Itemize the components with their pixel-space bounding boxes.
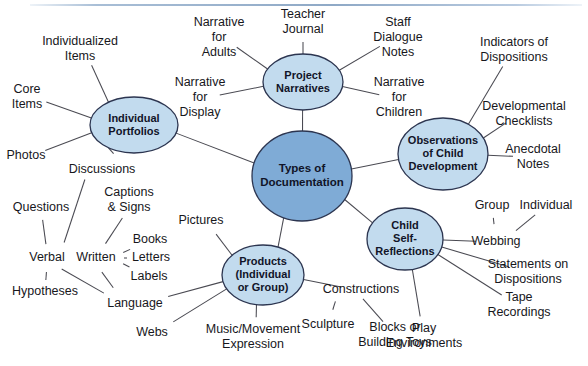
- edge-products-individual-or-group-to-pictures: [216, 234, 232, 255]
- leaf-labels: Labels: [131, 269, 168, 283]
- leaf-constructions: Constructions: [323, 282, 399, 296]
- edge-verbal-to-questions: [43, 220, 46, 244]
- mindmap-canvas: Types ofDocumentationIndividualPortfolio…: [0, 0, 588, 366]
- leaf-group: Group: [475, 198, 510, 212]
- edge-language-to-written: [102, 272, 113, 288]
- leaf-captions-and-signs: Captions& Signs: [104, 185, 153, 214]
- leaf-indicators-of-dispositions: Indicators ofDispositions: [480, 35, 549, 64]
- leaf-narrative-for-display: NarrativeforDisplay: [175, 75, 226, 119]
- leaf-tape-recordings: TapeRecordings: [487, 290, 550, 319]
- edge-center-to-observations-of-child-development: [351, 160, 398, 170]
- top-divider-rule: [30, 4, 582, 6]
- edge-products-to-language: [168, 282, 223, 297]
- edge-webbing-to-group: [493, 218, 494, 224]
- leaf-developmental-checklists: DevelopmentalChecklists: [482, 99, 565, 128]
- edge-project-narratives-to-staff-dialogue-notes: [339, 46, 380, 70]
- edge-individual-portfolios-to-photos: [45, 133, 91, 151]
- edge-child-self-reflections-to-play-environments: [412, 269, 420, 316]
- leaf-pictures: Pictures: [178, 213, 223, 227]
- leaf-sculpture: Sculpture: [302, 317, 355, 331]
- edge-project-narratives-to-narrative-for-display: [220, 86, 264, 95]
- edge-products-to-webs: [173, 289, 226, 322]
- node-label-individual-portfolios: IndividualPortfolios: [108, 111, 159, 136]
- leaf-teacher-journal: TeacherJournal: [281, 7, 325, 36]
- edge-written-to-captions: [106, 218, 123, 244]
- edge-center-to-child-self-reflections: [345, 199, 373, 222]
- leaf-statements-on-dispositions: Statements onDispositions: [488, 257, 569, 286]
- leaf-music-movement-expression: Music/MovementExpression: [206, 322, 301, 351]
- leaf-individualized-items: IndividualizedItems: [42, 34, 118, 63]
- leaf-letters: Letters: [132, 250, 170, 264]
- edge-individual-portfolios-to-individualized-items: [92, 65, 109, 102]
- leaf-webs: Webs: [136, 325, 168, 339]
- leaf-narrative-for-children: NarrativeforChildren: [374, 75, 425, 119]
- edge-written-to-labels: [123, 264, 129, 267]
- leaf-anecdotal-notes: AnecdotalNotes: [505, 142, 561, 171]
- leaf-staff-dialogue-notes: StaffDialogueNotes: [373, 15, 422, 59]
- leaf-individual: Individual: [520, 198, 573, 212]
- leaf-language: Language: [107, 296, 163, 310]
- node-label-products-individual-or-group: Products(Individualor Group): [236, 255, 291, 293]
- leaf-questions: Questions: [13, 200, 69, 214]
- edge-constructions-to-blocks: [363, 299, 383, 322]
- leaf-narrative-for-adults: NarrativeforAdults: [194, 15, 245, 59]
- documentation-mindmap: Types ofDocumentationIndividualPortfolio…: [0, 0, 588, 366]
- leaf-written: Written: [76, 250, 115, 264]
- edge-verbal-to-hypotheses: [46, 272, 47, 280]
- leaf-core-items: CoreItems: [12, 82, 43, 111]
- edge-project-narratives-to-narrative-for-adults: [237, 47, 268, 69]
- leaf-verbal: Verbal: [29, 250, 64, 264]
- leaf-discussions: Discussions: [69, 162, 136, 176]
- edge-webbing-to-individual: [516, 215, 535, 231]
- leaf-hypotheses: Hypotheses: [12, 284, 78, 298]
- edge-written-to-books: [123, 249, 130, 252]
- edge-center-to-products-individual-or-group: [278, 218, 284, 247]
- edge-constructions-to-sculpture: [333, 301, 336, 309]
- nodes-layer: Types ofDocumentationIndividualPortfolio…: [90, 54, 488, 305]
- leaf-books: Books: [133, 232, 168, 246]
- leaf-photos: Photos: [7, 148, 46, 162]
- leaf-webbing: Webbing: [471, 234, 520, 248]
- edge-individual-portfolios-to-core-items: [46, 102, 91, 118]
- edge-center-to-individual-portfolios: [176, 133, 254, 163]
